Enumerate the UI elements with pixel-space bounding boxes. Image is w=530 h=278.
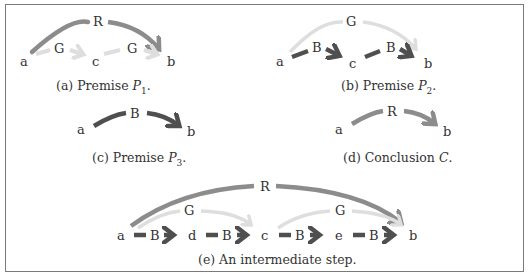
figure-diagram: R G G a c b G B B a c b B a b R a [0, 0, 530, 278]
caption-d: (d) Conclusion C. [343, 150, 452, 165]
node-b: b [424, 56, 432, 71]
caption-a: (a) Premise P1. [56, 78, 151, 96]
edge-label: B [295, 228, 305, 243]
node-c: c [261, 228, 268, 243]
edge-G-a-c [36, 50, 50, 54]
edge-G-c-b [278, 211, 330, 228]
edge-label: G [335, 203, 345, 218]
node-a: a [335, 122, 343, 137]
caption-b: (b) Premise P2. [341, 78, 436, 96]
caption-e: (e) An intermediate step. [198, 252, 357, 267]
panel-a: R G G a c b [20, 14, 175, 69]
edge-G-a-c-head [70, 50, 82, 54]
edge-label: G [127, 41, 137, 56]
edge-label: B [386, 40, 396, 55]
caption-c: (c) Premise P3. [92, 150, 186, 168]
panel-d: R a b [335, 104, 451, 139]
node-a: a [77, 122, 85, 137]
node-d: d [188, 228, 196, 243]
edge-label: R [387, 104, 398, 119]
edge-label: B [312, 40, 322, 55]
panel-e: R G G B B B B a d c e b [117, 179, 417, 243]
node-a: a [20, 54, 28, 69]
edge-G-c-b [104, 50, 120, 54]
node-c: c [349, 56, 356, 71]
panel-b: G B B a c b [276, 14, 432, 71]
edge-R-a-b-head [404, 111, 434, 123]
node-b: b [187, 124, 195, 139]
panel-c: B a b [77, 106, 195, 139]
edge-label: G [184, 203, 194, 218]
edge-B-a-c [292, 51, 308, 57]
edge-label: G [54, 41, 64, 56]
node-a: a [276, 54, 284, 69]
node-e: e [335, 228, 343, 243]
node-b: b [409, 228, 417, 243]
edge-label: B [222, 228, 232, 243]
edge-G-a-c-head [201, 211, 250, 224]
edge-label: R [260, 179, 271, 194]
edge-B-a-b-head [147, 113, 178, 125]
edge-G-c-b-head [144, 50, 156, 54]
node-a: a [117, 228, 125, 243]
edge-label: R [93, 14, 104, 29]
edge-B-c-b-head [400, 49, 410, 55]
edge-B-a-b [94, 113, 126, 126]
node-b: b [443, 124, 451, 139]
edge-B-c-b [365, 51, 380, 57]
edge-label: B [369, 228, 379, 243]
node-c: c [92, 54, 99, 69]
edge-label: B [130, 106, 140, 121]
edge-B-a-c-head [326, 49, 338, 55]
edge-label: G [346, 14, 356, 29]
node-b: b [167, 54, 175, 69]
edge-label: B [150, 228, 160, 243]
edge-R-a-b [352, 111, 383, 124]
